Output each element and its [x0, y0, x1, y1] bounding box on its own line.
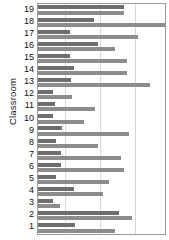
- y-tick-label: 6: [29, 162, 34, 171]
- bar-group: [38, 137, 165, 149]
- y-tick-label: 10: [24, 114, 34, 123]
- bar: [38, 102, 55, 106]
- bar: [38, 192, 103, 196]
- bar: [38, 229, 115, 233]
- bar: [38, 35, 138, 39]
- y-axis-tick-labels: 12345678910111213141516171819: [14, 3, 34, 235]
- bar: [38, 216, 132, 220]
- bar: [38, 168, 124, 172]
- y-tick-label: 4: [29, 186, 34, 195]
- bar-group: [38, 28, 165, 40]
- bar: [38, 78, 71, 82]
- y-tick-label: 17: [24, 29, 34, 38]
- y-tick-label: 3: [29, 198, 34, 207]
- bar: [38, 18, 94, 22]
- bar: [38, 83, 150, 87]
- y-tick-label: 8: [29, 138, 34, 147]
- y-tick-label: 16: [24, 41, 34, 50]
- bar: [38, 59, 127, 63]
- bar-group: [38, 173, 165, 185]
- bar: [38, 95, 72, 99]
- bar: [38, 71, 127, 75]
- bar-group: [38, 161, 165, 173]
- bar-group: [38, 186, 165, 198]
- y-tick-label: 13: [24, 77, 34, 86]
- bar: [38, 156, 121, 160]
- bar: [38, 5, 124, 9]
- bar: [38, 42, 98, 46]
- chart-figure: Classroom 12345678910111213141516171819: [0, 0, 169, 240]
- y-tick-label: 2: [29, 210, 34, 219]
- bar-group: [38, 65, 165, 77]
- y-tick-label: 9: [29, 126, 34, 135]
- bar-group: [38, 210, 165, 222]
- bar: [38, 175, 56, 179]
- y-tick-label: 11: [25, 101, 34, 110]
- plot-area: [37, 3, 166, 235]
- bar-group: [38, 113, 165, 125]
- bar-group: [38, 52, 165, 64]
- bar-group: [38, 4, 165, 16]
- bar: [38, 23, 165, 27]
- bar: [38, 163, 61, 167]
- bar: [38, 120, 84, 124]
- y-tick-label: 15: [24, 53, 34, 62]
- bar: [38, 132, 129, 136]
- bar: [38, 30, 70, 34]
- y-tick-label: 19: [24, 5, 34, 14]
- bar: [38, 114, 53, 118]
- y-tick-label: 14: [24, 65, 34, 74]
- bar-group: [38, 101, 165, 113]
- bar-group: [38, 89, 165, 101]
- y-tick-label: 18: [24, 17, 34, 26]
- bar-group: [38, 16, 165, 28]
- bar: [38, 139, 56, 143]
- bar: [38, 211, 119, 215]
- bar-group: [38, 40, 165, 52]
- bar-group: [38, 198, 165, 210]
- bar: [38, 54, 70, 58]
- bar: [38, 180, 109, 184]
- bar: [38, 199, 53, 203]
- y-tick-label: 1: [29, 222, 34, 231]
- bar: [38, 187, 74, 191]
- bar: [38, 66, 74, 70]
- bar: [38, 126, 62, 130]
- bar-group: [38, 222, 165, 234]
- bar: [38, 223, 75, 227]
- bar: [38, 151, 61, 155]
- bar: [38, 90, 53, 94]
- bar: [38, 11, 124, 15]
- bar-group: [38, 149, 165, 161]
- y-tick-label: 5: [29, 174, 34, 183]
- bar-group: [38, 77, 165, 89]
- bar: [38, 47, 115, 51]
- bar: [38, 204, 60, 208]
- y-tick-label: 12: [24, 89, 34, 98]
- bar: [38, 144, 98, 148]
- bar: [38, 107, 95, 111]
- bar-group: [38, 125, 165, 137]
- y-tick-label: 7: [29, 150, 34, 159]
